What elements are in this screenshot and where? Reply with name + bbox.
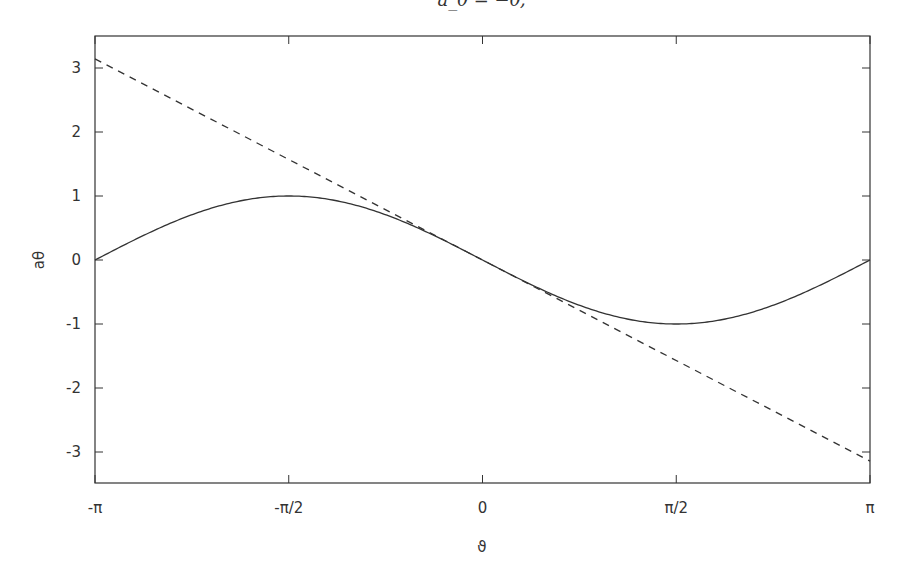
x-tick-labels: -π-π/20π/2π (88, 499, 875, 517)
y-tick-label: -3 (66, 443, 81, 461)
plot-series (95, 59, 870, 461)
x-axis-label: ϑ (477, 538, 486, 556)
y-tick-labels: 3210-1-2-3 (66, 59, 81, 461)
y-tick-label: -2 (66, 379, 81, 397)
chart-title: a_θ = −θ; (437, 0, 526, 11)
x-tick-label: 0 (478, 499, 488, 517)
y-tick-label: 1 (71, 187, 81, 205)
y-tick-label: 0 (71, 251, 81, 269)
x-tick-label: -π/2 (274, 499, 303, 517)
series-neg-sin-line (95, 196, 870, 324)
y-tick-label: 3 (71, 59, 81, 77)
x-tick-label: π/2 (664, 499, 688, 517)
y-axis-label: aθ (30, 251, 48, 269)
chart: a_θ = −θ; -π-π/20π/2π 3210-1-2-3 ϑ aθ (0, 0, 899, 572)
y-tick-label: -1 (66, 315, 81, 333)
y-tick-label: 2 (71, 123, 81, 141)
x-tick-label: π (865, 499, 874, 517)
x-tick-label: -π (88, 499, 102, 517)
